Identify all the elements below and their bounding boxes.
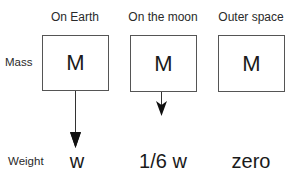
weight-value-outer-space: zero [232, 150, 271, 173]
weight-value-earth: w [70, 150, 84, 173]
weight-value-moon: 1/6 w [139, 150, 187, 173]
arrow-down-icon-moon [156, 92, 167, 116]
arrow-down-icon-earth [70, 91, 81, 148]
